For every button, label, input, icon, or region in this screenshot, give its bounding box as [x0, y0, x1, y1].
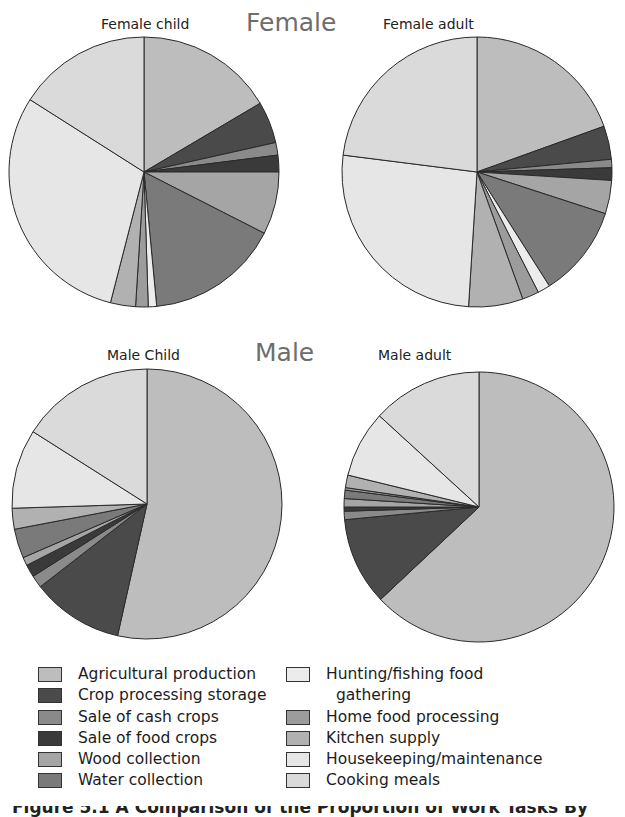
legend-swatch [286, 752, 310, 767]
legend-label: Crop processing storage [78, 685, 266, 706]
legend-label: Agricultural production [78, 664, 256, 685]
pie-male-child [12, 369, 282, 639]
legend-item: Crop processing storage [38, 685, 266, 706]
legend-label: Kitchen supply [326, 728, 440, 749]
pie-slice [343, 37, 477, 172]
legend-right-column: Hunting/fishing foodgatheringHome food p… [286, 664, 543, 792]
legend-swatch [286, 710, 310, 725]
legend-label: Sale of food crops [78, 728, 217, 749]
legend-swatch [38, 667, 62, 682]
legend-label: Wood collection [78, 749, 201, 770]
legend-label: Housekeeping/maintenance [326, 749, 543, 770]
legend-label: Water collection [78, 770, 203, 791]
legend-left-column: Agricultural productionCrop processing s… [38, 664, 266, 792]
legend-swatch [38, 710, 62, 725]
legend-label: Sale of cash crops [78, 707, 219, 728]
pie-female-adult [342, 37, 612, 307]
legend-item: Wood collection [38, 749, 266, 770]
legend-label: Hunting/fishing foodgathering [326, 664, 483, 707]
legend-item: Agricultural production [38, 664, 266, 685]
legend-item: Sale of food crops [38, 728, 266, 749]
legend-item: Hunting/fishing foodgathering [286, 664, 543, 707]
pie-male-adult [344, 372, 614, 642]
legend-label: Cooking meals [326, 770, 440, 791]
legend-swatch [286, 773, 310, 788]
legend-swatch [286, 731, 310, 746]
legend-item: Home food processing [286, 707, 543, 728]
legend-item: Water collection [38, 770, 266, 791]
legend-item: Cooking meals [286, 770, 543, 791]
legend-item: Kitchen supply [286, 728, 543, 749]
legend-swatch [38, 731, 62, 746]
legend-label: Home food processing [326, 707, 499, 728]
legend-item: Housekeeping/maintenance [286, 749, 543, 770]
legend-swatch [38, 752, 62, 767]
pie-slice [342, 155, 477, 307]
legend-swatch [38, 688, 62, 703]
pie-female-child [9, 37, 279, 307]
legend-item: Sale of cash crops [38, 707, 266, 728]
legend-swatch [38, 773, 62, 788]
legend-swatch [286, 667, 310, 682]
